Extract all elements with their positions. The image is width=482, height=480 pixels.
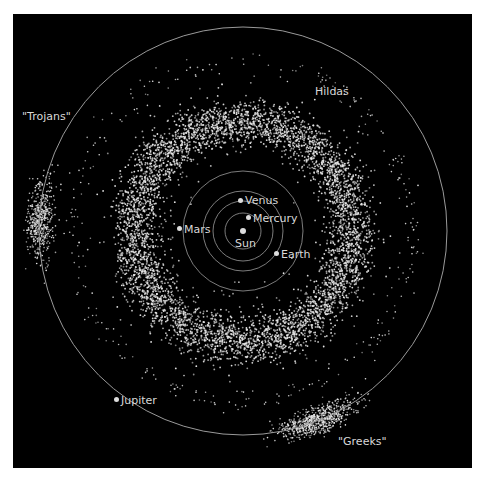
asteroid: [245, 105, 247, 107]
asteroid: [159, 165, 161, 167]
asteroid: [326, 145, 328, 147]
asteroid: [179, 296, 181, 298]
asteroid: [125, 203, 127, 205]
asteroid: [207, 334, 209, 336]
asteroid: [117, 271, 119, 273]
asteroid: [220, 115, 222, 117]
asteroid: [247, 124, 249, 126]
asteroid: [184, 305, 186, 307]
greek-asteroid: [289, 419, 291, 421]
asteroid: [316, 293, 318, 295]
asteroid: [290, 140, 292, 142]
asteroid: [322, 147, 324, 149]
asteroid: [323, 165, 325, 167]
trojan-asteroid: [50, 173, 52, 175]
greek-asteroid: [293, 421, 295, 423]
asteroid: [203, 110, 205, 112]
hilda-asteroid: [372, 351, 374, 353]
asteroid: [336, 156, 338, 158]
asteroid: [179, 322, 181, 324]
asteroid: [343, 263, 345, 265]
asteroid: [152, 241, 154, 243]
asteroid: [178, 118, 180, 120]
asteroid: [190, 317, 192, 319]
asteroid: [330, 208, 332, 210]
asteroid: [263, 143, 265, 145]
greek-asteroid: [319, 410, 321, 412]
asteroid: [264, 281, 266, 283]
asteroid: [333, 263, 335, 265]
trojan-asteroid: [33, 217, 35, 219]
hilda-asteroid: [393, 159, 395, 161]
asteroid: [123, 266, 125, 268]
asteroid: [215, 335, 217, 337]
trojan-asteroid: [31, 234, 33, 236]
asteroid: [347, 168, 349, 170]
asteroid: [260, 347, 262, 349]
hilda-asteroid: [412, 218, 414, 220]
asteroid: [146, 308, 148, 310]
asteroid: [180, 147, 182, 149]
asteroid: [237, 133, 239, 135]
greek-asteroid: [283, 433, 285, 435]
asteroid: [159, 216, 161, 218]
asteroid: [207, 124, 209, 126]
greek-asteroid: [328, 412, 330, 414]
asteroid: [214, 340, 216, 342]
asteroid: [223, 336, 225, 338]
asteroid: [284, 146, 286, 148]
greeks-label: "Greeks": [338, 436, 387, 447]
hilda-asteroid: [97, 322, 99, 324]
asteroid: [346, 220, 348, 222]
asteroid: [164, 296, 166, 298]
hilda-asteroid: [236, 390, 238, 392]
trojan-asteroid: [54, 199, 56, 201]
asteroid: [319, 316, 321, 318]
asteroid: [282, 133, 284, 135]
asteroid: [193, 134, 195, 136]
asteroid: [291, 348, 293, 350]
asteroid: [290, 127, 292, 129]
asteroid: [321, 305, 323, 307]
asteroid: [146, 267, 148, 269]
asteroid: [235, 357, 237, 359]
asteroid: [222, 326, 224, 328]
asteroid: [264, 101, 266, 103]
asteroid: [276, 140, 278, 142]
asteroid: [250, 356, 252, 358]
asteroid: [173, 223, 175, 225]
asteroid: [335, 289, 337, 291]
asteroid: [147, 179, 149, 181]
asteroid: [361, 257, 363, 259]
asteroid: [198, 142, 200, 144]
asteroid: [165, 279, 167, 281]
asteroid: [358, 261, 360, 263]
asteroid: [221, 126, 223, 128]
asteroid: [363, 287, 365, 289]
asteroid: [346, 282, 348, 284]
trojan-asteroid: [32, 244, 34, 246]
asteroid: [150, 251, 152, 253]
asteroid: [183, 329, 185, 331]
asteroid: [208, 331, 210, 333]
asteroid: [269, 356, 271, 358]
asteroid: [180, 167, 182, 169]
asteroid: [210, 344, 212, 346]
hilda-asteroid: [75, 209, 77, 211]
asteroid: [113, 237, 115, 239]
asteroid: [246, 114, 248, 116]
asteroid: [212, 344, 214, 346]
asteroid: [238, 334, 240, 336]
greek-asteroid: [337, 409, 339, 411]
asteroid: [135, 266, 137, 268]
asteroid: [186, 114, 188, 116]
asteroid: [151, 172, 153, 174]
asteroid: [192, 128, 194, 130]
asteroid: [299, 300, 301, 302]
asteroid: [313, 292, 315, 294]
greek-asteroid: [312, 419, 314, 421]
asteroid: [322, 157, 324, 159]
asteroid: [343, 130, 345, 132]
asteroid: [320, 132, 322, 134]
solar-system-diagram: Sun Mercury Venus Earth Mars Jupiter "Tr…: [13, 14, 472, 468]
